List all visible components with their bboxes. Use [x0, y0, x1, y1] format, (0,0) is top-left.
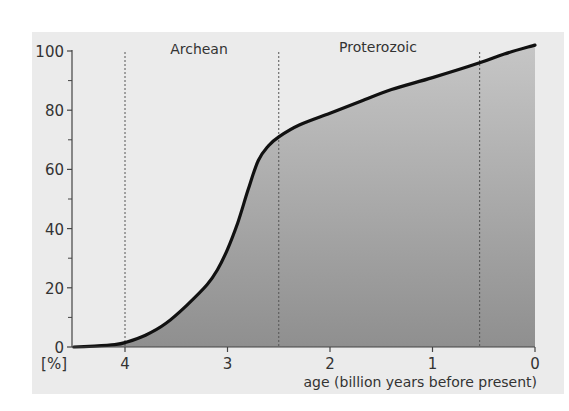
- y-tick-label: 40: [45, 221, 64, 239]
- x-tick-label: 4: [120, 355, 130, 373]
- x-tick-label: 0: [530, 355, 540, 373]
- era-label-archean: Archean: [170, 41, 228, 57]
- y-tick-label: 80: [45, 102, 64, 120]
- y-tick-label: 20: [45, 280, 64, 298]
- x-axis-title: age (billion years before present): [304, 374, 538, 390]
- x-tick-label: 3: [223, 355, 233, 373]
- area-chart-svg: 02040608010043210[%]age (billion years b…: [0, 0, 569, 411]
- y-tick-label: 60: [45, 161, 64, 179]
- x-tick-label: 1: [428, 355, 438, 373]
- y-tick-label: 100: [35, 43, 64, 61]
- y-axis-unit-label: [%]: [41, 355, 67, 373]
- era-label-proterozoic: Proterozoic: [339, 39, 417, 55]
- x-tick-label: 2: [325, 355, 335, 373]
- chart: 02040608010043210[%]age (billion years b…: [0, 0, 569, 411]
